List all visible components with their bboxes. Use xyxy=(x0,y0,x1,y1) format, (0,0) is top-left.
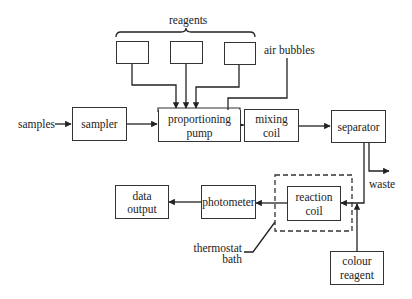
data-output-text-line2: output xyxy=(127,203,156,215)
mixing-text-line2: coil xyxy=(263,127,280,139)
proportioning-pump-box: proportioning pump xyxy=(158,110,241,142)
separator-text: separator xyxy=(337,121,379,133)
reaction-text-line2: coil xyxy=(305,205,322,217)
pump-text-line2: pump xyxy=(186,127,212,139)
mixing-text-line1: mixing xyxy=(255,113,288,125)
separator-box: separator xyxy=(331,110,386,143)
reagent-box-2 xyxy=(170,41,203,64)
arrow-reagent3-pump xyxy=(196,64,239,108)
reagents-label: reagents xyxy=(169,14,207,26)
samples-label: samples xyxy=(18,118,55,130)
data-output-text-line1: data xyxy=(132,190,151,202)
reagents-brace xyxy=(116,28,255,37)
colour-reagent-text-line1: colour xyxy=(342,255,371,267)
pump-text-line1: proportioning xyxy=(168,113,231,125)
colour-reagent-box: colour reagent xyxy=(330,251,384,285)
thermostat-label: thermostat bath xyxy=(176,243,242,265)
air-bubbles-label: air bubbles xyxy=(264,44,315,56)
colour-reagent-text-line2: reagent xyxy=(340,269,374,281)
photometer-box: photometer xyxy=(201,185,256,219)
arrow-separator-reaction xyxy=(341,142,364,203)
data-output-box: data output xyxy=(115,185,169,219)
arrow-reagent1-pump xyxy=(132,63,176,108)
photometer-text: photometer xyxy=(202,196,254,208)
sampler-text: sampler xyxy=(81,118,117,130)
sampler-box: sampler xyxy=(72,107,127,141)
reagent-box-3 xyxy=(224,42,256,65)
waste-label: waste xyxy=(369,178,395,190)
mixing-coil-box: mixing coil xyxy=(244,109,299,142)
reaction-coil-box: reaction coil xyxy=(287,186,341,221)
reagent-box-1 xyxy=(116,41,149,64)
thermostat-label-line2: bath xyxy=(176,254,242,265)
reaction-text-line1: reaction xyxy=(295,191,332,203)
arrow-separator-waste xyxy=(369,142,389,171)
thermostat-leader-line xyxy=(244,222,275,252)
